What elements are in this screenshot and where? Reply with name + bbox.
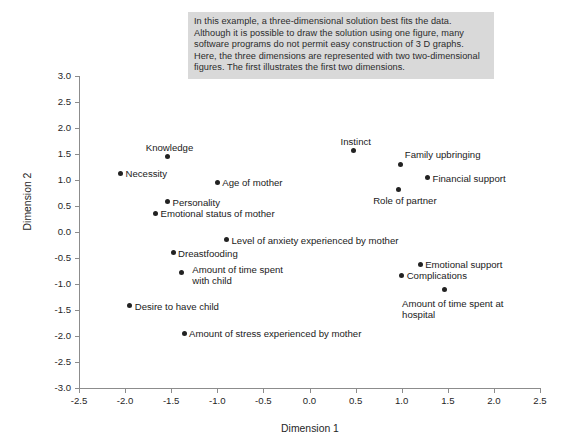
data-point-label: Desire to have child	[135, 300, 219, 311]
data-point-label: Amount of time spent at hospital	[402, 298, 503, 320]
data-point-marker	[442, 287, 447, 292]
y-tick-mark	[75, 284, 79, 285]
data-point-label: Instinct	[341, 136, 371, 147]
y-tick-mark	[75, 362, 79, 363]
y-tick-label: -1.5	[41, 304, 71, 315]
x-tick-label: 2.0	[474, 395, 514, 406]
y-tick-mark	[75, 154, 79, 155]
y-tick-label: 0.0	[41, 226, 71, 237]
data-point-label: Dreastfooding	[178, 247, 238, 258]
y-tick-label: -0.5	[41, 252, 71, 263]
data-point-marker	[127, 303, 132, 308]
x-tick-mark	[217, 389, 218, 393]
data-point-marker	[182, 331, 187, 336]
y-tick-mark	[75, 128, 79, 129]
data-point-marker	[215, 180, 220, 185]
annotation-note-text: In this example, a three-dimensional sol…	[194, 16, 489, 74]
x-tick-mark	[540, 389, 541, 393]
x-tick-label: -1.0	[197, 395, 237, 406]
y-tick-mark	[75, 336, 79, 337]
data-point-marker	[399, 273, 404, 278]
y-tick-label: -2.0	[41, 330, 71, 341]
data-point-label: Emotional support	[425, 259, 502, 270]
data-point-marker	[179, 270, 184, 275]
y-tick-mark	[75, 180, 79, 181]
scatter-plot-figure: In this example, a three-dimensional sol…	[0, 0, 567, 448]
y-tick-label: 1.0	[41, 174, 71, 185]
data-point-label: Amount of time spent with child	[192, 264, 283, 286]
data-point-marker	[153, 211, 158, 216]
data-point-marker	[398, 162, 403, 167]
x-tick-mark	[494, 389, 495, 393]
y-tick-mark	[75, 232, 79, 233]
data-point-label: Personality	[173, 196, 220, 207]
data-point-marker	[418, 262, 423, 267]
y-axis-line	[79, 76, 80, 389]
y-tick-mark	[75, 206, 79, 207]
x-tick-mark	[171, 389, 172, 393]
x-tick-mark	[79, 389, 80, 393]
x-tick-mark	[125, 389, 126, 393]
x-tick-label: -2.5	[59, 395, 99, 406]
data-point-marker	[118, 171, 123, 176]
data-point-marker	[396, 187, 401, 192]
annotation-note-box: In this example, a three-dimensional sol…	[188, 12, 494, 79]
y-tick-label: 2.0	[41, 122, 71, 133]
x-tick-label: 1.0	[382, 395, 422, 406]
data-point-label: Age of mother	[222, 177, 282, 188]
data-point-label: Role of partner	[373, 195, 436, 206]
x-axis-title: Dimension 1	[79, 423, 541, 434]
y-tick-label: -3.0	[41, 382, 71, 393]
x-tick-mark	[310, 389, 311, 393]
x-tick-label: -2.0	[105, 395, 145, 406]
data-point-label: Financial support	[433, 172, 506, 183]
y-tick-mark	[75, 76, 79, 77]
x-tick-label: -1.5	[151, 395, 191, 406]
x-tick-label: -0.5	[243, 395, 283, 406]
y-tick-label: -1.0	[41, 278, 71, 289]
y-tick-label: 3.0	[41, 70, 71, 81]
data-point-label: Knowledge	[146, 142, 193, 153]
data-point-marker	[425, 175, 430, 180]
x-tick-mark	[448, 389, 449, 393]
data-point-marker	[165, 199, 170, 204]
y-tick-label: 2.5	[41, 96, 71, 107]
data-point-label: Complications	[407, 270, 467, 281]
y-tick-mark	[75, 258, 79, 259]
data-point-label: Emotional status of mother	[161, 208, 275, 219]
data-point-label: Family upbringing	[405, 149, 481, 160]
y-tick-label: -2.5	[41, 356, 71, 367]
x-tick-mark	[356, 389, 357, 393]
y-tick-mark	[75, 310, 79, 311]
y-tick-mark	[75, 102, 79, 103]
data-point-marker	[351, 148, 356, 153]
x-tick-label: 1.5	[428, 395, 468, 406]
data-point-marker	[171, 250, 176, 255]
data-point-label: Necessity	[125, 168, 167, 179]
x-tick-label: 2.5	[520, 395, 560, 406]
data-point-label: Amount of stress experienced by mother	[189, 328, 361, 339]
x-tick-mark	[402, 389, 403, 393]
x-tick-label: 0.0	[290, 395, 330, 406]
data-point-label: Level of anxiety experienced by mother	[232, 234, 399, 245]
y-axis-title: Dimension 2	[22, 152, 33, 252]
x-tick-mark	[263, 389, 264, 393]
y-tick-label: 1.5	[41, 148, 71, 159]
data-point-marker	[165, 154, 170, 159]
x-tick-label: 0.5	[336, 395, 376, 406]
data-point-marker	[224, 237, 229, 242]
y-tick-label: 0.5	[41, 200, 71, 211]
